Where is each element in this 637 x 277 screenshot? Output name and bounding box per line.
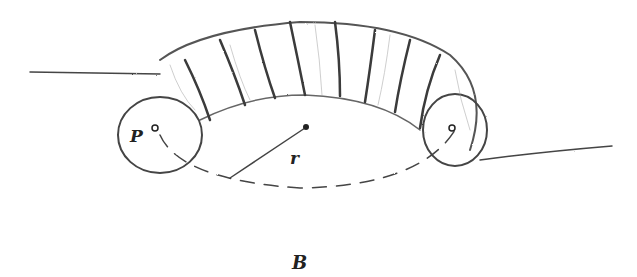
field-loop-dashed <box>160 130 455 188</box>
coil-windings <box>185 22 440 128</box>
lead-wire-right <box>480 146 612 160</box>
label-p: P <box>130 126 143 146</box>
label-r: r <box>290 148 299 168</box>
toroid-diagram <box>0 0 637 277</box>
point-p-marker <box>152 125 158 131</box>
lead-wire-left <box>30 72 160 74</box>
center-point <box>303 124 309 130</box>
label-b: B <box>292 252 307 273</box>
right-point-marker <box>449 125 455 131</box>
torus-inner-top <box>200 95 420 130</box>
